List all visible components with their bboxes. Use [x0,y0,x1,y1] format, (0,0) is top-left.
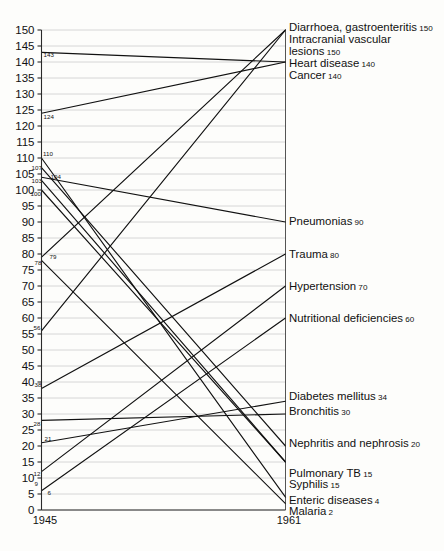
left-value-124: 124 [44,113,55,120]
right-label-text: Hypertension [289,280,356,292]
right-label-pneumonias[interactable]: Pneumonias 90 [289,216,364,229]
right-label-value: 90 [352,218,363,227]
left-value-21: 21 [45,435,52,442]
right-label-text: Cancer [289,69,326,81]
right-label-value: 150 [324,48,340,57]
y-tick-label-65: 65 [22,296,35,308]
right-label-diabetes-mellitus[interactable]: Diabetes mellitus 34 [289,391,387,404]
slope-line-diarrhoea-gastroenteritis[interactable] [42,30,286,331]
slope-chart-canvas: 0510152025303540455055606570758085909510… [0,0,444,551]
slope-line-syphilis[interactable] [42,190,286,462]
slope-lines [42,30,286,504]
right-label-intracranial-vascular[interactable]: Intracranial vascularlesions 150 [289,34,391,59]
right-label-cancer[interactable]: Cancer 140 [289,70,342,83]
left-value-103: 103 [32,177,43,184]
y-axis-ticks: 0510152025303540455055606570758085909510… [15,24,41,516]
right-label-text: lesions [289,45,324,57]
y-tick-label-150: 150 [15,24,34,36]
right-label-value: 15 [361,470,372,479]
left-value-labels: 5679143124104381262128107103100110789 [31,51,62,495]
right-label-nutritional-deficiencies[interactable]: Nutritional deficiencies 60 [289,313,414,326]
y-tick-label-110: 110 [16,152,34,164]
right-label-text: Malaria [289,505,326,517]
right-label-text: Nutritional deficiencies [289,312,403,324]
y-tick-label-80: 80 [22,248,35,260]
left-value-9: 9 [35,480,39,487]
slope-chart: 0510152025303540455055606570758085909510… [0,0,444,551]
left-value-38: 38 [35,381,42,388]
y-tick-label-120: 120 [15,120,34,132]
left-value-12: 12 [34,470,41,477]
right-label-hypertension[interactable]: Hypertension 70 [289,281,367,294]
y-tick-label-35: 35 [22,392,35,404]
right-label-value: 15 [328,481,339,490]
right-label-text: Syphilis [289,478,328,490]
y-tick-label-40: 40 [22,376,35,388]
left-value-78: 78 [35,259,42,266]
right-label-value: 70 [356,283,367,292]
right-label-nephritis-and-nephrosis[interactable]: Nephritis and nephrosis 20 [289,438,420,451]
right-label-value: 150 [417,24,433,33]
right-label-value: 20 [409,440,420,449]
right-label-text: Nephritis and nephrosis [289,437,409,449]
right-label-value: 34 [376,393,387,402]
left-value-110: 110 [43,150,53,157]
right-label-text: Pneumonias [289,215,352,227]
right-label-text: Bronchitis [289,405,339,417]
y-tick-label-125: 125 [15,104,34,116]
slope-line-pneumonias[interactable] [42,177,286,222]
y-tick-label-85: 85 [22,232,35,244]
right-label-text: Diabetes mellitus [289,390,376,402]
y-tick-label-145: 145 [15,40,34,52]
left-value-104: 104 [51,173,62,180]
y-tick-label-60: 60 [22,312,35,324]
y-tick-label-5: 5 [28,488,34,500]
right-label-value: 30 [339,408,350,417]
y-tick-label-30: 30 [22,408,35,420]
left-value-107: 107 [32,164,43,171]
y-tick-label-140: 140 [15,56,34,68]
left-value-143: 143 [44,51,55,58]
left-value-56: 56 [34,324,41,331]
y-tick-label-75: 75 [22,264,35,276]
y-tick-label-135: 135 [15,72,34,84]
slope-line-cancer[interactable] [42,62,286,113]
y-tick-label-45: 45 [22,360,35,372]
right-label-syphilis[interactable]: Syphilis 15 [289,479,340,492]
y-tick-label-70: 70 [22,280,35,292]
right-label-value: 4 [373,497,380,506]
right-label-text: Trauma [289,248,328,260]
slope-line-enteric-diseases[interactable] [42,158,286,497]
left-value-100: 100 [31,190,42,197]
y-tick-label-130: 130 [15,88,34,100]
slope-line-hypertension[interactable] [42,286,286,472]
left-value-79: 79 [50,253,57,260]
slope-line-heart-disease[interactable] [42,52,286,62]
y-tick-label-20: 20 [22,440,35,452]
right-label-text: Diarrhoea, gastroenteritis [289,21,417,33]
right-label-bronchitis[interactable]: Bronchitis 30 [289,406,350,419]
x-tick-1945: 1945 [33,514,57,526]
y-tick-label-50: 50 [22,344,35,356]
right-label-value: 140 [326,72,342,81]
left-value-6: 6 [48,489,52,496]
right-label-value: 140 [359,60,375,69]
y-tick-label-15: 15 [22,456,35,468]
right-label-value: 60 [403,315,414,324]
right-label-value: 80 [328,251,339,260]
right-label-text: Heart disease [289,57,359,69]
right-label-value: 2 [326,508,333,517]
left-value-28: 28 [34,420,41,427]
right-label-trauma[interactable]: Trauma 80 [289,249,339,262]
y-tick-label-90: 90 [22,216,35,228]
gridlines [42,30,286,510]
y-tick-label-95: 95 [22,200,35,212]
right-label-malaria[interactable]: Malaria 2 [289,506,333,519]
y-tick-label-115: 115 [16,136,34,148]
